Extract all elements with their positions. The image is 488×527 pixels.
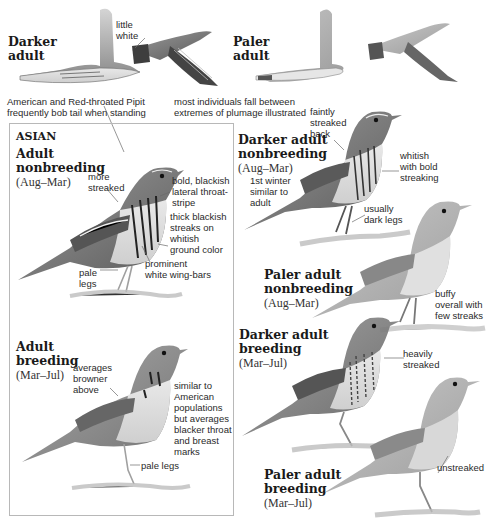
title-line: Darker adult (238, 133, 328, 147)
season-label: (Aug–Mar) (238, 161, 328, 175)
note-line: American (174, 391, 232, 402)
more-streaked-note: more streaked (88, 171, 124, 193)
whitish-bold-streaking-note: whitish with bold streaking (400, 150, 439, 183)
note-line: heavily (403, 348, 439, 359)
title-line: nonbreeding (238, 147, 328, 161)
title-line: breeding (239, 342, 329, 356)
note-line: streaking (400, 172, 439, 183)
note-line: streaked (403, 359, 439, 370)
note-line: lateral throat- (172, 186, 230, 197)
note-line: populations (174, 402, 232, 413)
note-line: 1st winter (250, 175, 291, 186)
title-line: nonbreeding (264, 282, 353, 296)
bob-tail-caption: American and Red-throated Pipit frequent… (7, 96, 146, 118)
note-line: similar to (250, 186, 291, 197)
note-line: bold, blackish (172, 175, 230, 186)
note-line: faintly (310, 106, 346, 117)
dark-legs-note: usually dark legs (364, 203, 403, 225)
note-line: buffy (435, 288, 483, 299)
asian-heading: ASIAN (16, 130, 56, 143)
season-label: (Mar–Jul) (16, 368, 79, 382)
note-line: few streaks (435, 310, 483, 321)
throat-stripe-note: bold, blackish lateral throat- stripe (172, 175, 230, 208)
title-line: Paler adult (264, 468, 341, 482)
caption-line: frequently bob tail when standing (7, 107, 146, 118)
paler-nonbreeding-title: Paler adult nonbreeding (Aug–Mar) (264, 268, 353, 310)
note-line: stripe (172, 197, 230, 208)
note-line: averages (73, 362, 112, 373)
similar-to-american-note: similar to American populations but aver… (174, 380, 232, 457)
note-line: similar to (174, 380, 232, 391)
note-line: with bold (400, 161, 439, 172)
unstreaked-note: unstreaked (437, 462, 484, 473)
note-line: more (88, 171, 124, 182)
darker-breeding-title: Darker adult breeding (Mar–Jul) (239, 328, 329, 370)
browner-above-note: averages browner above (73, 362, 112, 395)
title-line: adult (8, 49, 57, 63)
note-line: streaked (88, 182, 124, 193)
title-line: adult (233, 49, 269, 63)
asian-breeding-title: Adult breeding (Mar–Jul) (16, 340, 79, 382)
note-line: ground color (170, 244, 227, 255)
buffy-overall-note: buffy overall with few streaks (435, 288, 483, 321)
thick-streaks-note: thick blackish streaks on whitish ground… (170, 211, 227, 255)
title-line: Darker (8, 35, 57, 49)
caption-line: extremes of plumage illustrated (174, 107, 306, 118)
field-guide-page: Darker adult little white Paler adult Am… (0, 0, 488, 527)
title-line: Paler (233, 35, 269, 49)
note-line: marks (174, 446, 232, 457)
title-line: Adult (16, 147, 105, 161)
note-line: prominent (145, 258, 211, 269)
season-label: (Mar–Jul) (264, 496, 341, 510)
paler-adult-flight-title: Paler adult (233, 35, 269, 63)
note-line: browner (73, 373, 112, 384)
note-line: streaks on (170, 222, 227, 233)
season-label: (Mar–Jul) (239, 356, 329, 370)
note-line: dark legs (364, 214, 403, 225)
note-line: streaked (310, 117, 346, 128)
first-winter-note: 1st winter similar to adult (250, 175, 291, 208)
note-line: thick blackish (170, 211, 227, 222)
note-line: blacker throat (174, 424, 232, 435)
note-line: above (73, 384, 112, 395)
plumage-extremes-caption: most individuals fall between extremes o… (174, 96, 306, 118)
note-line: pale legs (141, 460, 179, 471)
wing-bars-note: prominent white wing-bars (145, 258, 211, 280)
title-line: Adult (16, 340, 79, 354)
darker-adult-flight-upperside-illustration (132, 31, 218, 86)
note-line: whitish (400, 150, 439, 161)
note-line: little (116, 19, 138, 30)
note-line: unstreaked (437, 462, 484, 473)
note-line: and breast (174, 435, 232, 446)
breeding-pale-legs-note: pale legs (141, 460, 179, 471)
title-line: Darker adult (239, 328, 329, 342)
darker-adult-flight-title: Darker adult (8, 35, 57, 63)
caption-line: most individuals fall between (174, 96, 306, 107)
little-white-note: little white (116, 19, 138, 41)
note-line: overall with (435, 299, 483, 310)
title-line: breeding (16, 354, 79, 368)
paler-breeding-title: Paler adult breeding (Mar–Jul) (264, 468, 341, 510)
note-line: whitish (170, 233, 227, 244)
note-line: adult (250, 197, 291, 208)
title-line: Paler adult (264, 268, 353, 282)
note-line: pale (79, 267, 97, 278)
season-label: (Aug–Mar) (264, 296, 353, 310)
note-line: white (116, 30, 138, 41)
darker-nonbreeding-title: Darker adult nonbreeding (Aug–Mar) (238, 133, 328, 175)
note-line: usually (364, 203, 403, 214)
pale-legs-note: pale legs (79, 267, 97, 289)
heavily-streaked-note: heavily streaked (403, 348, 439, 370)
paler-adult-flight-upperside-illustration (368, 23, 458, 82)
note-line: white wing-bars (145, 269, 211, 280)
title-line: breeding (264, 482, 341, 496)
note-line: but averages (174, 413, 232, 424)
note-line: legs (79, 278, 97, 289)
caption-line: American and Red-throated Pipit (7, 96, 146, 107)
